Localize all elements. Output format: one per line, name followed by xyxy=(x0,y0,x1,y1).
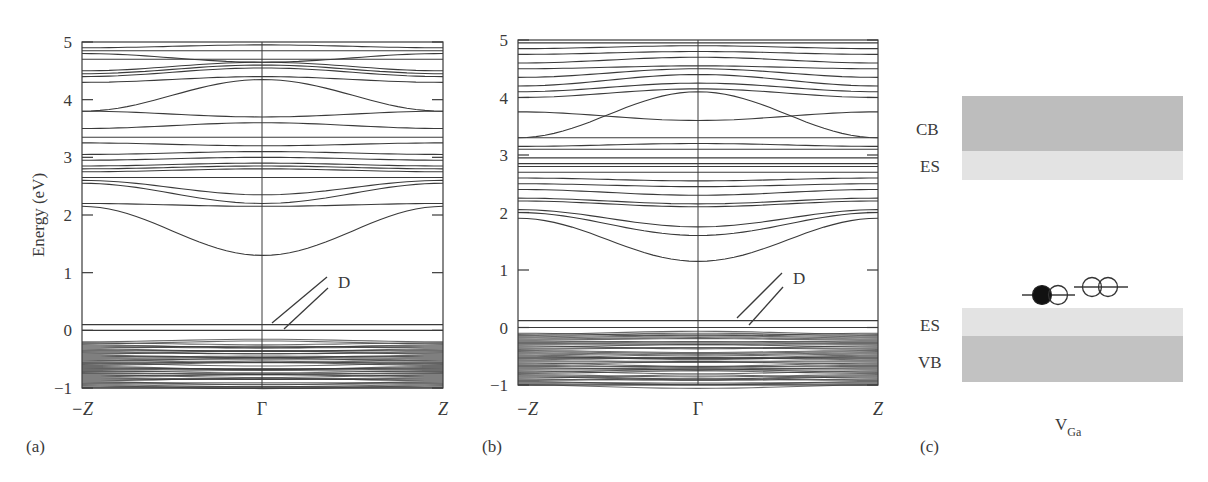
y-tick-label: 3 xyxy=(64,148,73,167)
cb-label: CB xyxy=(916,120,939,139)
y-tick-label: 4 xyxy=(500,89,509,108)
y-tick-label: −1 xyxy=(490,376,508,395)
valence-band-block xyxy=(962,336,1183,382)
y-tick-label: −1 xyxy=(54,379,72,398)
kpoint-minus-z-b: −Z xyxy=(516,399,539,419)
vacancy-label: VGa xyxy=(1055,415,1082,439)
panel-label-c: (c) xyxy=(920,437,939,456)
y-tick-label: 5 xyxy=(500,31,509,50)
y-tick-label: 5 xyxy=(64,33,73,52)
es-bottom-label: ES xyxy=(920,316,940,335)
kpoint-z-a: Z xyxy=(438,399,449,419)
kpoint-gamma-a: Γ xyxy=(257,399,267,419)
energy-level-schematic-c: CB ES ES VB VGa (c) xyxy=(916,96,1183,456)
excited-state-band-top xyxy=(962,151,1183,180)
y-tick-label: 1 xyxy=(500,261,509,280)
y-tick-label: 3 xyxy=(500,146,509,165)
defect-level-higher xyxy=(1074,278,1128,297)
vb-label: VB xyxy=(918,353,942,372)
y-axis-title: Energy (eV) xyxy=(29,173,48,257)
defect-pointer-a-1 xyxy=(272,277,327,323)
panel-label-b: (b) xyxy=(482,437,502,456)
vacancy-symbol: V xyxy=(1055,415,1068,434)
defect-label-a: D xyxy=(338,273,350,292)
y-tick-label: 2 xyxy=(64,206,73,225)
band-structure-panel-a: −1012345 Energy (eV) −Z Γ Z D (a) xyxy=(26,33,449,456)
panel-label-a: (a) xyxy=(26,437,45,456)
y-tick-label: 0 xyxy=(64,321,73,340)
kpoint-z-b: Z xyxy=(873,399,884,419)
figure: −1012345 Energy (eV) −Z Γ Z D (a) −10123… xyxy=(0,0,1208,482)
y-tick-label: 0 xyxy=(500,319,509,338)
y-tick-label: 4 xyxy=(64,91,73,110)
es-top-label: ES xyxy=(920,157,940,176)
vacancy-subscript: Ga xyxy=(1067,425,1082,439)
y-tick-label: 1 xyxy=(64,264,73,283)
defect-pointer-b-2 xyxy=(749,287,783,325)
defect-level-lower xyxy=(1022,286,1075,305)
band-structure-panel-b: −1012345 −Z Γ Z D (b) xyxy=(482,31,884,456)
conduction-band-block xyxy=(962,96,1183,151)
kpoint-gamma-b: Γ xyxy=(693,399,703,419)
excited-state-band-bottom xyxy=(962,308,1183,336)
kpoint-minus-z-a: −Z xyxy=(71,399,94,419)
defect-label-b: D xyxy=(793,269,805,288)
y-tick-label: 2 xyxy=(500,204,509,223)
